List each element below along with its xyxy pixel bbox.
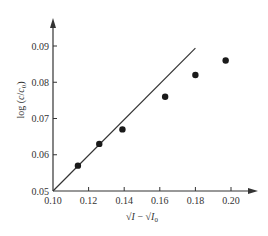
y-tick-label: 0.06 xyxy=(32,149,50,160)
data-point xyxy=(119,126,125,132)
y-axis-label: log (c/c0) xyxy=(15,81,28,118)
x-tick-label: 0.20 xyxy=(222,195,240,206)
y-tick-label: 0.07 xyxy=(32,113,50,124)
fit-line-segment xyxy=(53,48,195,191)
data-point xyxy=(96,141,102,147)
x-axis-label: √I − √I0 xyxy=(126,211,158,224)
x-tick-label: 0.12 xyxy=(80,195,98,206)
y-tick-label: 0.09 xyxy=(32,41,50,52)
data-points xyxy=(75,57,229,169)
x-tick-label: 0.18 xyxy=(187,195,205,206)
x-tick-label: 0.14 xyxy=(115,195,133,206)
y-axis-arrow-icon xyxy=(50,18,56,28)
chart: 0.100.120.140.160.180.200.050.060.070.08… xyxy=(0,0,268,236)
y-tick-label: 0.08 xyxy=(32,77,50,88)
data-point xyxy=(222,57,228,63)
x-tick-label: 0.10 xyxy=(44,195,62,206)
data-point xyxy=(192,72,198,78)
axes xyxy=(50,18,258,194)
x-tick-label: 0.16 xyxy=(151,195,169,206)
y-tick-label: 0.05 xyxy=(32,186,50,197)
data-point xyxy=(162,94,168,100)
fit-line xyxy=(53,48,195,191)
x-axis-arrow-icon xyxy=(248,188,258,194)
data-point xyxy=(75,162,81,168)
